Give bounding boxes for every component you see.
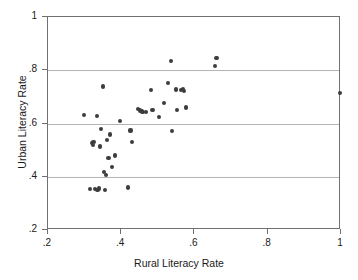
data-point xyxy=(108,132,112,136)
y-axis-tick-mark xyxy=(42,16,47,17)
y-axis-tick-label: .8 xyxy=(7,64,37,74)
x-axis-tick-label: .6 xyxy=(179,238,209,248)
data-point xyxy=(162,101,166,105)
data-point xyxy=(113,153,117,157)
x-axis-tick-label: .4 xyxy=(105,238,135,248)
data-point xyxy=(214,56,218,60)
data-point xyxy=(144,110,148,114)
y-axis-tick-mark xyxy=(42,69,47,70)
data-point xyxy=(105,138,109,142)
x-axis-tick-mark xyxy=(267,229,268,234)
gridline-horizontal xyxy=(48,124,339,125)
plot-area xyxy=(47,16,340,229)
data-point xyxy=(126,185,130,189)
data-point xyxy=(150,108,154,112)
y-axis-tick-mark xyxy=(42,176,47,177)
x-axis-tick-mark xyxy=(120,229,121,234)
data-point xyxy=(98,144,102,148)
x-axis-tick-label: .2 xyxy=(32,238,62,248)
gridline-horizontal xyxy=(48,177,339,178)
y-axis-tick-label: .2 xyxy=(7,224,37,234)
y-axis-tick-label: .6 xyxy=(7,118,37,128)
data-point xyxy=(338,91,342,95)
data-point xyxy=(97,186,101,190)
data-point xyxy=(184,105,188,109)
y-axis-tick-label: 1 xyxy=(7,11,37,21)
data-point xyxy=(104,173,108,177)
y-axis-tick-label: .4 xyxy=(7,171,37,181)
data-point xyxy=(128,128,132,132)
x-axis-tick-mark xyxy=(47,229,48,234)
data-point xyxy=(103,188,107,192)
data-point xyxy=(157,115,161,119)
x-axis-tick-label: .8 xyxy=(252,238,282,248)
data-point xyxy=(101,84,105,88)
data-point xyxy=(174,87,178,91)
x-axis-tick-mark xyxy=(193,229,194,234)
scatter-chart-figure: Rural Literacy Rate Urban Literacy Rate … xyxy=(0,0,358,280)
x-axis-tick-mark xyxy=(340,229,341,234)
x-axis-title: Rural Literacy Rate xyxy=(0,257,358,269)
x-axis-tick-label: 1 xyxy=(325,238,355,248)
data-point xyxy=(106,156,110,160)
y-axis-tick-mark xyxy=(42,123,47,124)
data-point xyxy=(91,140,95,144)
data-point xyxy=(82,113,86,117)
data-point xyxy=(149,88,153,92)
gridline-horizontal xyxy=(48,70,339,71)
